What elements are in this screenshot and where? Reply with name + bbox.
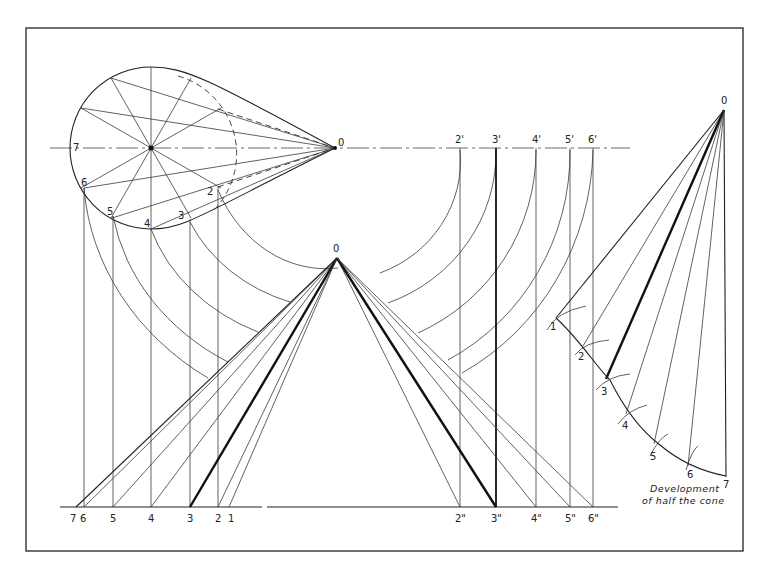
caption-line-2: of half the cone [642,495,725,506]
front-label-2: 2 [215,513,221,524]
front-label-3: 3 [187,513,193,524]
top-view: 0 7 6 5 4 3 2 [50,67,630,229]
tl-label-4p: 4' [532,134,541,145]
top-label-4: 4 [144,218,150,229]
rotation-arcs [84,150,593,378]
front-label-1: 1 [228,513,234,524]
caption-line-1: Development [650,483,720,494]
tl-label-5p: 5' [565,134,574,145]
front-view: 0 7 6 5 4 3 2 1 2" 3" 4" 5" 6" [60,243,618,524]
front-label-5: 5 [110,513,116,524]
tl-label-2p: 2' [455,134,464,145]
top-label-7: 7 [73,142,79,153]
top-label-5: 5 [107,206,113,217]
dev-label-6: 6 [687,469,693,480]
top-label-3: 3 [178,210,184,221]
front-label-4pp: 4" [531,513,542,524]
front-label-6pp: 6" [588,513,599,524]
dev-label-3: 3 [601,386,607,397]
front-label-3pp: 3" [491,513,502,524]
dev-label-5: 5 [650,451,656,462]
dev-label-4: 4 [622,420,628,431]
cone-development-drawing: 0 7 6 5 4 3 2 2' 3' 4' 5' [0,0,759,575]
top-apex-label: 0 [338,137,344,148]
tl-label-3p: 3' [492,134,501,145]
front-label-6: 6 [80,513,86,524]
front-apex-label: 0 [333,243,339,254]
development-view: 0 1 2 3 4 5 6 7 Development of half the … [547,95,729,506]
top-label-2: 2 [207,186,213,197]
tl-label-6p: 6' [588,134,597,145]
true-length-lines: 2' 3' 4' 5' 6' [455,134,597,507]
front-label-4: 4 [148,513,154,524]
dev-label-2: 2 [578,351,584,362]
drawing-frame [26,28,743,551]
front-label-7: 7 [70,513,76,524]
front-label-2pp: 2" [455,513,466,524]
front-label-5pp: 5" [565,513,576,524]
dev-label-7: 7 [723,479,729,490]
top-label-6: 6 [81,177,87,188]
dev-label-1: 1 [550,321,556,332]
dev-apex-label: 0 [721,95,727,106]
